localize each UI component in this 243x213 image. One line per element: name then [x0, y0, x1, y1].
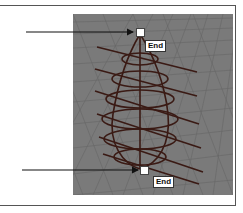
callout-arrows: [0, 0, 243, 213]
